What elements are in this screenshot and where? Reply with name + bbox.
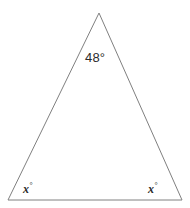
triangle-outline: [8, 13, 182, 200]
right-base-angle-label: x°: [148, 182, 158, 195]
triangle-figure: 48° x° x°: [0, 0, 190, 208]
apex-angle-label: 48°: [85, 51, 105, 64]
left-base-angle-label: x°: [23, 182, 33, 195]
triangle-shape: [0, 0, 190, 208]
left-base-angle-variable: x: [23, 182, 29, 196]
left-base-angle-degree-symbol: °: [30, 181, 33, 190]
right-base-angle-variable: x: [148, 182, 154, 196]
right-base-angle-degree-symbol: °: [155, 181, 158, 190]
